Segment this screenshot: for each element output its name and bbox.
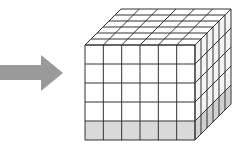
diagram-canvas xyxy=(0,0,237,149)
unit-cube-block xyxy=(85,9,231,140)
cube-diagram xyxy=(0,0,237,149)
right-arrow-icon xyxy=(0,55,63,91)
